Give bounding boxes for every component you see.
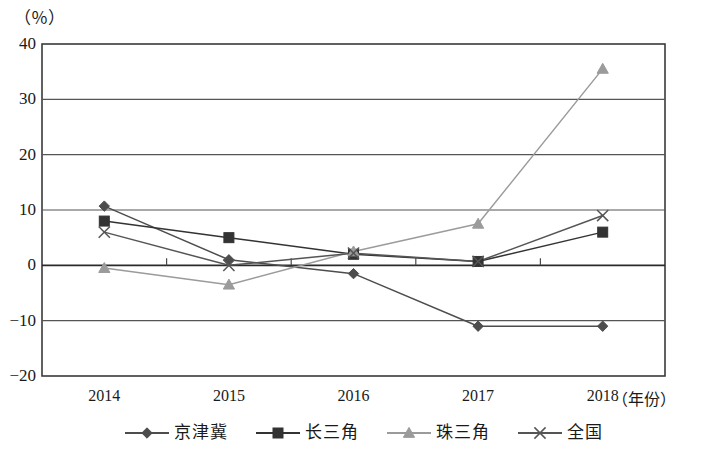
diamond-marker-icon xyxy=(473,321,483,331)
legend-item-label: 全国 xyxy=(567,424,603,441)
diamond-marker-icon xyxy=(348,268,358,278)
chart-legend: 京津冀长三角珠三角全国 xyxy=(0,424,727,441)
square-marker-icon xyxy=(99,216,109,226)
legend-swatch xyxy=(518,425,562,441)
legend-item-label: 长三角 xyxy=(305,424,359,441)
series-markers xyxy=(99,210,609,271)
triangle-marker-icon xyxy=(99,263,110,273)
legend-swatch xyxy=(125,425,169,441)
series-markers xyxy=(99,201,608,331)
diamond-marker-icon xyxy=(224,255,234,265)
cross-marker-icon xyxy=(597,210,608,221)
diamond-marker-icon xyxy=(141,427,151,437)
series-line xyxy=(104,206,602,326)
square-marker-icon xyxy=(598,227,608,237)
triangle-marker-icon xyxy=(597,63,608,73)
legend-item[interactable]: 长三角 xyxy=(256,424,359,441)
cross-marker-icon xyxy=(99,227,110,238)
legend-swatch xyxy=(387,425,431,441)
legend-item-label: 京津冀 xyxy=(174,424,228,441)
diamond-marker-icon xyxy=(598,321,608,331)
square-marker-icon xyxy=(273,428,283,438)
legend-swatch xyxy=(256,425,300,441)
plot-area xyxy=(0,0,727,457)
line-chart: （％） （年份） 403020100−10−20 201420152016201… xyxy=(0,0,727,457)
series-markers xyxy=(99,63,609,289)
legend-item-label: 珠三角 xyxy=(436,424,490,441)
square-marker-icon xyxy=(224,233,234,243)
legend-item[interactable]: 珠三角 xyxy=(387,424,490,441)
series-diamond xyxy=(104,206,602,326)
legend-item[interactable]: 京津冀 xyxy=(125,424,228,441)
legend-item[interactable]: 全国 xyxy=(518,424,603,441)
